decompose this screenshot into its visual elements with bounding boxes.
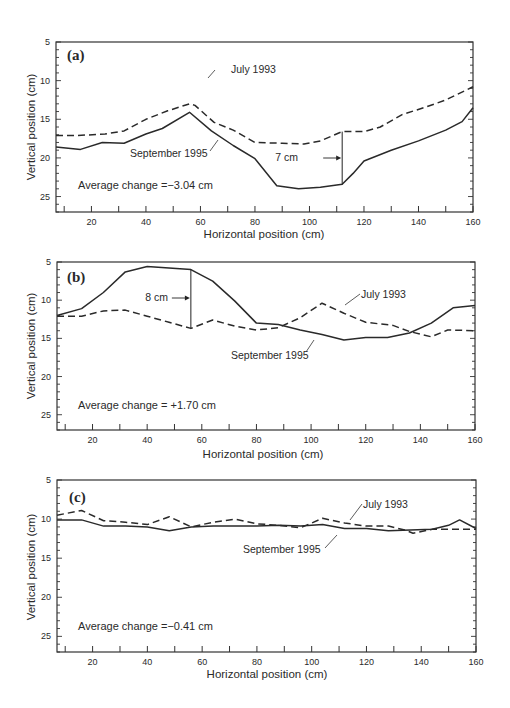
y-tick-label: 15 <box>41 553 51 563</box>
y-tick-label: 5 <box>46 257 51 267</box>
y-tick-label: 20 <box>41 372 51 382</box>
panel-c: (c) Average change =−0.41 cm July 1993 S… <box>25 475 484 680</box>
x-tick-label: 80 <box>252 657 262 667</box>
label-leader-line <box>325 535 337 548</box>
panel-label: (c) <box>69 489 86 506</box>
series-september-1995-line <box>56 108 473 189</box>
x-tick-label: 160 <box>465 217 480 227</box>
x-tick-label: 60 <box>197 657 207 667</box>
x-tick-label: 140 <box>414 657 429 667</box>
y-tick-label: 20 <box>40 153 50 163</box>
panel-label: (b) <box>67 269 85 286</box>
x-tick-label: 40 <box>141 217 151 227</box>
label-leader-line <box>345 294 360 305</box>
y-tick-label: 25 <box>41 631 51 641</box>
y-tick-label: 10 <box>41 514 51 524</box>
x-tick-label: 80 <box>251 435 261 445</box>
x-tick-label: 120 <box>358 435 373 445</box>
average-change-label: Average change = +1.70 cm <box>78 399 216 411</box>
x-tick-label: 140 <box>413 435 428 445</box>
y-axis-title: Vertical position (cm) <box>25 513 37 620</box>
y-axis-title: Vertical position (cm) <box>25 292 37 399</box>
y-tick-label: 10 <box>40 76 50 86</box>
difference-label: 7 cm <box>275 151 298 163</box>
series-label-july-1993: July 1993 <box>231 63 276 75</box>
y-tick-label: 5 <box>46 475 51 485</box>
panel-b: (b) Average change = +1.70 cm July 1993 … <box>25 257 483 460</box>
series-label-july-1993: July 1993 <box>361 288 406 300</box>
label-leader-line <box>306 340 314 352</box>
series-july-1993-line <box>56 87 473 144</box>
x-tick-label: 100 <box>304 657 319 667</box>
y-tick-label: 25 <box>41 410 51 420</box>
x-tick-label: 60 <box>195 217 205 227</box>
series-september-1995-line <box>57 520 476 531</box>
y-tick-label: 25 <box>40 192 50 202</box>
x-axis-title: Horizontal position (cm) <box>203 448 324 460</box>
panel-label: (a) <box>67 47 85 64</box>
x-tick-label: 40 <box>142 657 152 667</box>
average-change-label: Average change =−3.04 cm <box>78 179 213 191</box>
x-tick-label: 100 <box>304 435 319 445</box>
x-tick-label: 80 <box>250 217 260 227</box>
y-tick-label: 5 <box>45 37 50 47</box>
y-tick-label: 10 <box>41 295 51 305</box>
difference-label: 8 cm <box>145 291 168 303</box>
x-tick-label: 120 <box>359 657 374 667</box>
label-leader-line <box>210 140 218 151</box>
x-tick-label: 60 <box>197 435 207 445</box>
label-leader-line <box>350 504 362 520</box>
series-label-july-1993: July 1993 <box>363 498 408 510</box>
x-axis-title: Horizontal position (cm) <box>204 228 325 240</box>
y-tick-label: 15 <box>40 114 50 124</box>
y-tick-label: 15 <box>41 333 51 343</box>
x-tick-label: 20 <box>86 217 96 227</box>
x-tick-label: 20 <box>88 657 98 667</box>
panel-a: (a) Average change =−3.04 cm July 1993 S… <box>25 37 481 240</box>
label-leader-line <box>208 70 215 78</box>
x-tick-label: 20 <box>88 435 98 445</box>
x-tick-label: 140 <box>411 217 426 227</box>
x-tick-label: 100 <box>302 217 317 227</box>
x-tick-label: 40 <box>142 435 152 445</box>
figure-canvas: (a) Average change =−3.04 cm July 1993 S… <box>0 0 510 708</box>
x-axis-title: Horizontal position (cm) <box>207 668 328 680</box>
difference-arrowhead <box>185 296 190 301</box>
y-tick-label: 20 <box>41 592 51 602</box>
series-label-september-1995: September 1995 <box>130 147 208 159</box>
series-label-september-1995: September 1995 <box>243 543 321 555</box>
x-tick-label: 120 <box>356 217 371 227</box>
y-axis-title: Vertical position (cm) <box>25 73 37 180</box>
figure: (a) Average change =−3.04 cm July 1993 S… <box>0 0 510 708</box>
series-label-september-1995: September 1995 <box>231 349 309 361</box>
x-tick-label: 160 <box>467 435 482 445</box>
difference-arrowhead <box>336 156 341 161</box>
average-change-label: Average change =−0.41 cm <box>78 620 213 632</box>
x-tick-label: 160 <box>468 657 483 667</box>
